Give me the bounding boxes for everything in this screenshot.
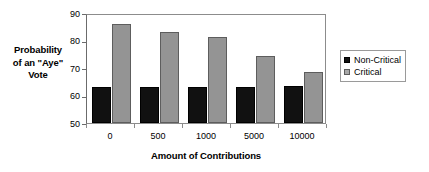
x-axis-title: Amount of Contributions (86, 150, 326, 161)
plot-area-frame (86, 14, 326, 124)
bar-critical-10000 (304, 72, 323, 123)
y-axis-tick-label: 80 (70, 37, 80, 46)
plot-area (87, 15, 325, 123)
x-axis-tick-mark (326, 124, 327, 128)
x-axis-tick-labels: 05001000500010000 (86, 131, 326, 145)
legend-label: Non-Critical (354, 55, 401, 65)
y-axis-tick-label: 70 (70, 65, 80, 74)
bar-chart: Probability of an "Aye" Vote 5060708090 … (0, 0, 429, 172)
legend-item-critical: Critical (344, 66, 401, 78)
y-axis-tick-label: 90 (70, 10, 80, 19)
x-axis-tick-mark (86, 124, 87, 128)
x-axis-tick-mark (182, 124, 183, 128)
x-axis-tick-mark (230, 124, 231, 128)
x-axis-tick-label: 0 (107, 131, 112, 141)
x-axis-tick-mark (278, 124, 279, 128)
bar-non-critical-10000 (284, 86, 303, 123)
bar-critical-1000 (208, 37, 227, 123)
bar-non-critical-0 (92, 87, 111, 123)
bar-non-critical-500 (140, 87, 159, 123)
y-axis-tick-labels: 5060708090 (60, 14, 84, 124)
x-axis-tick-label: 500 (150, 131, 165, 141)
x-axis-tick-label: 10000 (289, 131, 314, 141)
bar-non-critical-5000 (236, 87, 255, 123)
x-axis-tick-label: 5000 (244, 131, 264, 141)
legend-label: Critical (354, 67, 382, 77)
gray-square-icon (344, 69, 350, 75)
y-axis-tick-label: 60 (70, 92, 80, 101)
bar-critical-5000 (256, 56, 275, 123)
bar-non-critical-1000 (188, 87, 207, 123)
y-axis-tick-label: 50 (70, 120, 80, 129)
bar-critical-0 (112, 24, 131, 123)
bar-critical-500 (160, 32, 179, 123)
x-axis-tick-mark (134, 124, 135, 128)
chart-legend: Non-CriticalCritical (340, 50, 406, 82)
x-axis-tick-marks (86, 124, 326, 129)
legend-item-non-critical: Non-Critical (344, 54, 401, 66)
x-axis-tick-label: 1000 (196, 131, 216, 141)
black-square-icon (344, 57, 350, 63)
